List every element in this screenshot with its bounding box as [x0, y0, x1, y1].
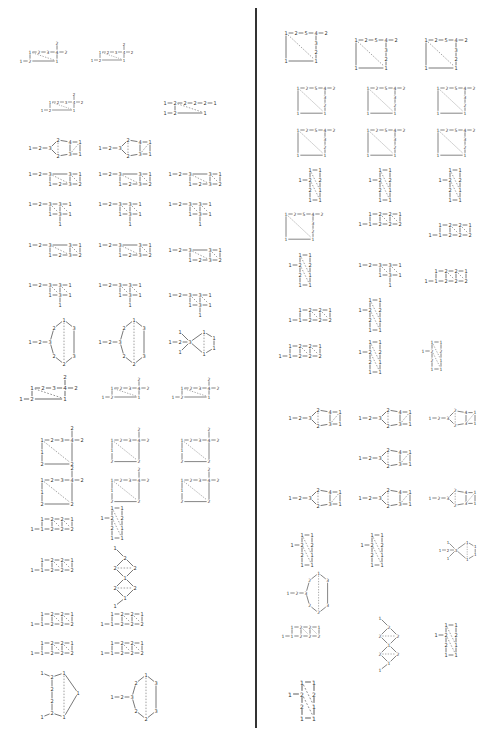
vertex-label: 1 — [208, 201, 211, 207]
vertex-label: 2 — [397, 652, 400, 657]
vertex-label: 2 — [58, 252, 61, 258]
vertex-label: 1 — [408, 501, 411, 507]
vertex-label: 1 — [422, 349, 425, 354]
vertex-label: 4 — [324, 128, 327, 133]
vertex-label: 1 — [100, 650, 103, 656]
vertex-label: 1 — [203, 110, 206, 116]
edge-solid — [117, 570, 123, 576]
vertex-label: 1 — [202, 329, 205, 335]
edge-dashed — [44, 482, 70, 503]
vertex-label: 2 — [438, 416, 441, 421]
vertex-label: 3 — [398, 461, 401, 467]
vertex-label: 1 — [62, 670, 65, 676]
vertex-label: 1 — [431, 340, 434, 345]
vertex-label: 1 — [394, 153, 397, 158]
graph-diagram-78: 112221111 — [288, 679, 316, 722]
vertex-label: 2 — [56, 41, 59, 46]
edge-solid — [138, 677, 144, 682]
vertex-label: 1 — [338, 409, 341, 415]
vertex-label: 1 — [123, 595, 126, 601]
graph-diagram-24: 123422112 — [172, 377, 220, 400]
vertex-label: 2 — [60, 567, 63, 573]
vertex-label: 1 — [188, 211, 191, 217]
graph-diagram-76: 122212211 — [379, 616, 400, 673]
edge-solid — [65, 675, 76, 691]
vertex-label: 2 — [308, 353, 311, 359]
vertex-label: 3 — [199, 438, 202, 443]
vertex-label: 1 — [338, 489, 341, 495]
vertex-label: 1 — [110, 694, 113, 700]
vertex-label: 1 — [213, 100, 216, 106]
graph-diagram-2: 123422112 — [91, 42, 134, 63]
vertex-label: 1 — [63, 396, 67, 402]
vertex-label: 2 — [108, 242, 111, 248]
graph-diagram-71: 112221111 — [290, 532, 313, 568]
edge-solid — [320, 607, 325, 611]
vertex-label: 1 — [298, 177, 301, 183]
vertex-label: 1 — [181, 478, 184, 483]
vertex-label: 1 — [40, 437, 43, 443]
vertex-label: 3 — [72, 325, 75, 331]
edge-solid — [56, 322, 62, 327]
vertex-label: 4 — [123, 50, 126, 55]
vertex-label: 1 — [288, 317, 291, 323]
vertex-label: 1 — [123, 58, 126, 63]
vertex-label: 1 — [378, 359, 381, 365]
vertex-label: 3 — [58, 211, 61, 217]
vertex-label: 2 — [198, 257, 201, 263]
vertex-label: 2 — [134, 708, 137, 714]
vertex-label: 2 — [70, 526, 73, 532]
vertex-label: 2 — [60, 526, 63, 532]
vertex-label: 1 — [408, 461, 411, 467]
vertex-label: 2 — [78, 252, 81, 258]
edge-solid — [458, 411, 464, 412]
vertex-label: 1 — [181, 448, 184, 453]
vertex-label: 2 — [50, 526, 53, 532]
vertex-label: 4 — [68, 139, 71, 145]
edge-solid — [382, 647, 388, 653]
edge-dashed — [462, 227, 468, 233]
graph-diagram-39: 121221211 — [40, 670, 79, 720]
edge-solid — [458, 543, 466, 549]
vertex-label: 2 — [190, 386, 193, 391]
vertex-label: 4 — [138, 438, 141, 443]
vertex-label: 3 — [48, 171, 51, 177]
vertex-label: 2 — [50, 674, 53, 680]
vertex-label: 2 — [50, 567, 53, 573]
vertex-label: 3 — [68, 252, 71, 258]
vertex-label: 1 — [76, 690, 79, 696]
graph-diagram-68: 123224311 — [288, 487, 341, 509]
vertex-label: 3 — [72, 353, 75, 359]
vertex-label: 1 — [28, 171, 31, 177]
vertex-label: 1 — [297, 153, 300, 158]
vertex-label: 1 — [98, 145, 101, 151]
edge-solid — [382, 620, 388, 626]
vertex-label: 2 — [464, 37, 467, 43]
graph-diagram-20: 123213322 — [98, 317, 145, 367]
vertex-label: 1 — [360, 542, 363, 548]
graph-diagram-64: 123224311 — [288, 407, 341, 429]
graph-diagram-28: 123421222 — [40, 465, 83, 507]
vertex-label: 2 — [308, 177, 311, 183]
graph-diagram-16: 123311311 — [28, 282, 71, 308]
vertex-label: 2 — [134, 680, 137, 686]
vertex-label: 4 — [138, 478, 141, 483]
vertex-label: 1 — [312, 237, 315, 242]
vertex-label: 1 — [358, 415, 361, 421]
edge-solid — [320, 575, 325, 579]
vertex-label: 2 — [108, 145, 111, 151]
vertex-label: 1 — [310, 562, 313, 568]
vertex-label: 2 — [65, 50, 68, 55]
vertex-label: 1 — [208, 292, 211, 298]
vertex-label: 3 — [198, 201, 201, 207]
edge-dashed — [132, 206, 138, 212]
vertex-label: 1 — [298, 317, 301, 323]
vertex-label: 1 — [434, 632, 437, 638]
graph-diagram-6: 123224311 — [98, 137, 151, 159]
vertex-label: 2 — [454, 56, 457, 62]
vertex-label: 2 — [178, 292, 181, 298]
vertex-label: 4 — [398, 449, 401, 455]
vertex-label: 2 — [108, 282, 111, 288]
vertex-label: 5 — [315, 86, 318, 91]
edge-dashed — [192, 206, 198, 212]
